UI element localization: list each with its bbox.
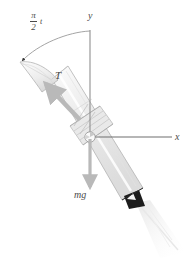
diagram-canvas <box>0 0 195 263</box>
rocket-free-body-diagram: y x T mg π 2 t <box>0 0 195 263</box>
y-axis-label: y <box>88 11 92 21</box>
thrust-label: T <box>55 70 61 81</box>
angle-arc <box>22 31 90 61</box>
angle-denominator: 2 <box>30 23 37 32</box>
angle-fraction: π 2 <box>30 11 37 32</box>
exhaust-plume <box>136 200 186 258</box>
angle-numerator: π <box>30 11 37 20</box>
angle-variable: t <box>39 18 42 26</box>
angle-label: π 2 t <box>30 11 42 32</box>
x-axis-label: x <box>175 132 179 142</box>
weight-label: mg <box>74 190 86 200</box>
